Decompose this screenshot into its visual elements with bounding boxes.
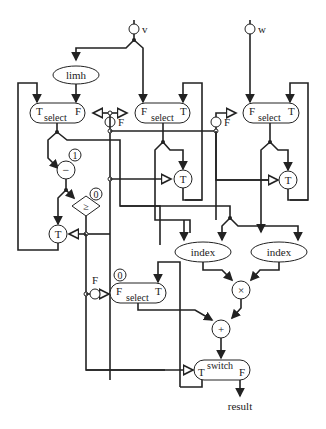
times-label: × xyxy=(238,284,244,296)
select4-init: 0 xyxy=(118,270,123,281)
index2-node: index xyxy=(251,242,307,280)
control-init-f3: F xyxy=(84,274,109,299)
times-node: × xyxy=(232,281,250,318)
select1-left: T xyxy=(36,105,43,117)
input-v-label: v xyxy=(142,23,148,35)
minus-const: 1 xyxy=(73,150,78,161)
geq-label: ≥ xyxy=(83,201,89,212)
result-label: result xyxy=(228,400,252,412)
limh-node: limh xyxy=(53,66,99,102)
gate-t3-node: T xyxy=(279,171,308,200)
index2-label: index xyxy=(267,246,292,258)
dataflow-diagram: v limh T select F F F selec xyxy=(0,0,326,429)
init-f3-label: F xyxy=(92,274,98,286)
gate-t2-label: T xyxy=(180,173,187,185)
input-w-label: w xyxy=(258,23,266,35)
select1-label: select xyxy=(44,112,67,123)
switch-label: switch xyxy=(207,360,233,371)
select2-left: F xyxy=(141,105,147,117)
select3-right: T xyxy=(288,105,295,117)
geq-const: 0 xyxy=(94,189,99,200)
select1-right: F xyxy=(75,105,81,117)
init-f2-label: F xyxy=(224,116,230,128)
limh-label: limh xyxy=(66,69,87,81)
select2-right: T xyxy=(180,105,187,117)
switch-right: F xyxy=(239,366,245,378)
minus-node: − 1 xyxy=(57,149,81,224)
init-f1-label: F xyxy=(118,116,124,128)
gate-t1-node: T xyxy=(18,225,67,250)
select2-label: select xyxy=(151,112,174,123)
index1-node: index xyxy=(175,242,232,280)
gate-t3-label: T xyxy=(285,174,292,186)
switch-node: T switch F result xyxy=(86,360,252,412)
switch-left: T xyxy=(198,366,205,378)
select3-label: select xyxy=(258,112,281,123)
index-wiring xyxy=(120,206,298,240)
input-v: v xyxy=(76,20,148,102)
gate-t1-label: T xyxy=(55,228,62,240)
select2-node: F select T xyxy=(135,83,202,233)
plus-label: + xyxy=(218,323,224,335)
gate-t2-node: T xyxy=(174,170,202,200)
select4-label: select xyxy=(126,292,149,303)
select4-right: T xyxy=(155,285,162,297)
select3-left: F xyxy=(249,105,255,117)
minus-label: − xyxy=(63,163,70,177)
index1-label: index xyxy=(191,246,216,258)
plus-node: + xyxy=(212,320,230,358)
input-w: w xyxy=(245,20,266,102)
select4-left: F xyxy=(116,285,122,297)
